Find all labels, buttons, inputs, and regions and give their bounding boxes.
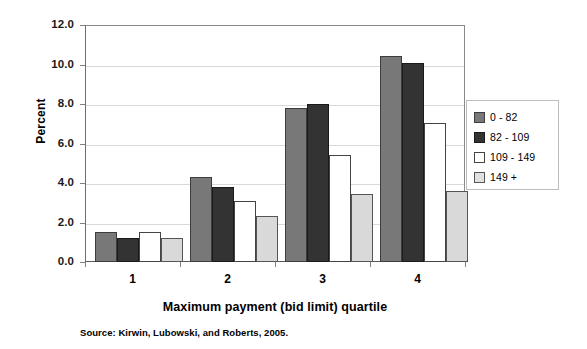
legend-swatch-icon [474, 132, 485, 143]
x-tick-mark [275, 262, 276, 267]
legend-label: 82 - 109 [490, 131, 529, 143]
y-tick-label: 10.0 [34, 58, 74, 70]
bar [402, 63, 424, 262]
x-axis-title: Maximum payment (bid limit) quartile [85, 300, 465, 314]
y-tick-label: 0.0 [34, 255, 74, 267]
y-tick-label: 12.0 [34, 18, 74, 30]
bar [190, 177, 212, 262]
legend-label: 149 + [490, 171, 517, 183]
legend-item[interactable]: 0 - 82 [474, 107, 558, 127]
legend-item[interactable]: 109 - 149 [474, 147, 558, 167]
legend-swatch-icon [474, 112, 485, 123]
bar [139, 232, 161, 262]
bar [446, 191, 468, 262]
bar [212, 187, 234, 262]
bar [329, 155, 351, 262]
y-tick-label: 2.0 [34, 216, 74, 228]
bar [424, 123, 446, 262]
legend-label: 109 - 149 [490, 151, 535, 163]
y-axis-title: Percent [34, 76, 48, 166]
x-category-label: 2 [198, 272, 258, 286]
y-tick-label: 8.0 [34, 97, 74, 109]
legend-item[interactable]: 82 - 109 [474, 127, 558, 147]
x-tick-mark [85, 262, 86, 267]
x-tick-mark [465, 262, 466, 267]
x-category-label: 4 [388, 272, 448, 286]
legend-swatch-icon [474, 152, 485, 163]
bar [234, 201, 256, 262]
y-tick-label: 6.0 [34, 137, 74, 149]
bar [161, 238, 183, 262]
legend: 0 - 8282 - 109109 - 149149 + [466, 100, 559, 190]
bar [307, 104, 329, 262]
x-tick-mark [180, 262, 181, 267]
bar-chart-figure: Percent 0.02.04.06.08.010.012.0 1234 Max… [0, 0, 587, 349]
bar [285, 108, 307, 262]
legend-item[interactable]: 149 + [474, 167, 558, 187]
bar [117, 238, 139, 262]
x-category-label: 3 [293, 272, 353, 286]
legend-swatch-icon [474, 172, 485, 183]
bar [256, 216, 278, 262]
y-tick-label: 4.0 [34, 176, 74, 188]
bar [380, 56, 402, 262]
bar [95, 232, 117, 262]
x-tick-mark [370, 262, 371, 267]
legend-label: 0 - 82 [490, 111, 517, 123]
bar [351, 194, 373, 262]
bars-layer [85, 25, 465, 262]
x-category-label: 1 [103, 272, 163, 286]
source-note: Source: Kirwin, Lubowski, and Roberts, 2… [80, 327, 288, 338]
